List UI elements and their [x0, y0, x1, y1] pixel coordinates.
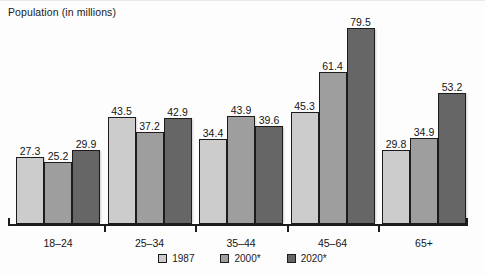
legend-label: 2000* [234, 253, 260, 264]
legend-item[interactable]: 1987 [158, 253, 194, 264]
bar-group: 45.361.479.5 [291, 23, 375, 224]
bar-value-label: 34.4 [203, 128, 223, 139]
bar-chart-figure: Population (in millions) 27.325.229.943.… [0, 0, 485, 275]
bar-value-label: 34.9 [414, 127, 434, 138]
bar-value-label: 42.9 [167, 107, 187, 118]
x-axis-tick [378, 225, 380, 232]
bar-group-bars: 27.325.229.9 [16, 23, 100, 224]
top-divider [0, 0, 485, 1]
bar-value-label: 29.8 [386, 139, 406, 150]
bar: 29.9 [72, 150, 100, 224]
bar: 53.2 [438, 93, 466, 224]
x-axis-category-label: 35–44 [199, 237, 283, 249]
legend-swatch-icon [158, 254, 167, 263]
bar: 34.4 [199, 139, 227, 224]
x-axis-category-label: 65+ [382, 237, 466, 249]
legend-swatch-icon [220, 254, 229, 263]
bar-value-label: 53.2 [442, 82, 462, 93]
bar-value-label: 43.5 [111, 106, 131, 117]
chart-legend: 19872000*2020* [0, 253, 485, 264]
bar: 39.6 [255, 126, 283, 224]
bar-group: 34.443.939.6 [199, 23, 283, 224]
legend-swatch-icon [287, 254, 296, 263]
bar-value-label: 45.3 [294, 101, 314, 112]
x-axis-left-cap [8, 218, 10, 226]
x-axis-category-label: 25–34 [108, 237, 192, 249]
bar-value-label: 29.9 [76, 139, 96, 150]
bar: 45.3 [291, 112, 319, 224]
legend-item[interactable]: 2000* [220, 253, 260, 264]
bar-group: 43.537.242.9 [108, 23, 192, 224]
bar-value-label: 43.9 [231, 105, 251, 116]
x-axis-tick [287, 225, 289, 232]
bar: 42.9 [164, 118, 192, 224]
x-axis-tick [195, 225, 197, 232]
plot-area: 27.325.229.943.537.242.934.443.939.645.3… [8, 22, 468, 225]
bar: 79.5 [347, 28, 375, 224]
x-axis-right-cap [466, 218, 468, 226]
legend-label: 1987 [172, 253, 194, 264]
bar: 27.3 [16, 157, 44, 224]
x-axis-line [8, 224, 468, 226]
bar-value-label: 37.2 [139, 121, 159, 132]
bar: 34.9 [410, 138, 438, 224]
bar-value-label: 25.2 [48, 151, 68, 162]
x-axis-tick [104, 225, 106, 232]
bar-value-label: 61.4 [322, 61, 342, 72]
bar-group: 27.325.229.9 [16, 23, 100, 224]
x-axis-category-label: 18–24 [16, 237, 100, 249]
bar-group-bars: 43.537.242.9 [108, 23, 192, 224]
bar: 43.5 [108, 117, 136, 224]
chart-title: Population (in millions) [8, 6, 116, 18]
bar-group: 29.834.953.2 [382, 23, 466, 224]
legend-item[interactable]: 2020* [287, 253, 327, 264]
legend-label: 2020* [301, 253, 327, 264]
x-axis-category-label: 45–64 [291, 237, 375, 249]
bar: 25.2 [44, 162, 72, 224]
bar: 37.2 [136, 132, 164, 224]
bar: 29.8 [382, 150, 410, 224]
bar-value-label: 79.5 [350, 17, 370, 28]
bar: 43.9 [227, 116, 255, 224]
bar-group-bars: 45.361.479.5 [291, 23, 375, 224]
bar-group-bars: 34.443.939.6 [199, 23, 283, 224]
bar-value-label: 27.3 [20, 146, 40, 157]
bar: 61.4 [319, 72, 347, 224]
bar-group-bars: 29.834.953.2 [382, 23, 466, 224]
bar-value-label: 39.6 [259, 115, 279, 126]
